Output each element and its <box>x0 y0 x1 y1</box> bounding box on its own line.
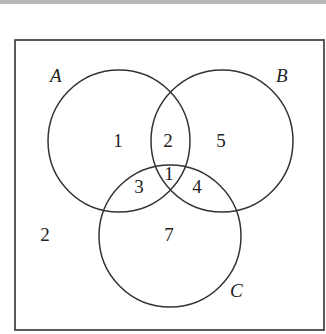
region-count-a-only: 1 <box>113 130 123 151</box>
set-label-c: C <box>230 280 243 301</box>
region-count-a-and-c-only: 3 <box>134 176 144 197</box>
region-count-a-and-b-and-c: 1 <box>164 163 174 184</box>
region-count-b-and-c-only: 4 <box>192 176 202 197</box>
region-count-a-and-b-only: 2 <box>163 130 173 151</box>
set-label-a: A <box>48 65 62 86</box>
venn-diagram: ABC 12513472 <box>0 0 326 334</box>
region-count-outside: 2 <box>40 224 50 245</box>
region-count-c-only: 7 <box>164 224 174 245</box>
set-label-b: B <box>276 65 288 86</box>
region-count-b-only: 5 <box>216 130 226 151</box>
